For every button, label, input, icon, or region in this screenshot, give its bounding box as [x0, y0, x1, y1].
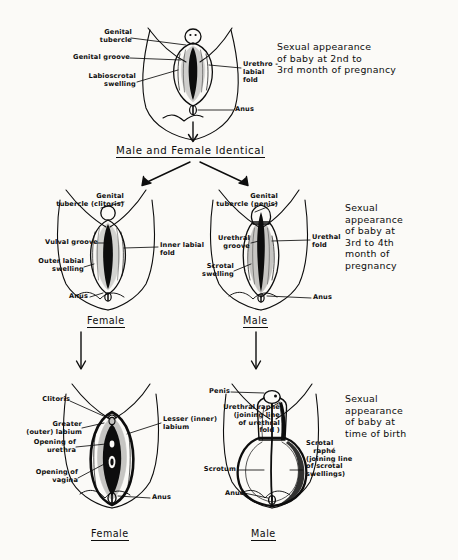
row-arrows	[77, 332, 261, 369]
label-outer-labial-swelling: Outer labial swelling	[18, 258, 84, 274]
label-genital-groove-top: Genital groove	[48, 54, 130, 62]
label-urethral-groove: Urethral groove	[180, 235, 250, 251]
stage-name-middle-male: Male	[243, 315, 268, 328]
divider-male-female-identical: Male and Female Identical	[116, 145, 265, 158]
stage-name-bottom-female: Female	[91, 528, 129, 541]
label-labioscrotal-swelling-top: Labioscrotal swelling	[52, 73, 136, 89]
label-scrotal-swelling: Scrotal swelling	[172, 263, 234, 279]
label-penis: Penis	[192, 388, 230, 396]
top-genital-structure	[174, 29, 213, 115]
stage-name-middle-female: Female	[87, 315, 125, 328]
label-scrotal-raphe: Scrotal raphé (joining line of scrotal s…	[306, 440, 352, 479]
label-genital-tubercle-top: Genital tubercle	[56, 29, 132, 45]
caption-stage-bottom: Sexual appearance of baby at time of bir…	[345, 393, 450, 439]
label-anus-middle-male: Anus	[313, 294, 332, 302]
label-urethro-labial-fold-top: Urethro - labial fold	[243, 61, 278, 84]
caption-stage-middle: Sexual appearance of baby at 3rd to 4th …	[345, 202, 450, 272]
label-greater-outer-labium: Greater (outer) labium	[8, 421, 82, 437]
label-scrotum: Scrotum	[186, 466, 236, 474]
label-opening-of-urethra: Opening of urethra	[10, 439, 76, 455]
label-genital-tubercle-penis: Genital tubercle (penis)	[176, 193, 278, 209]
stage-name-bottom-male: Male	[251, 528, 276, 541]
label-anus-bottom-female: Anus	[152, 494, 171, 502]
label-vulval-groove: Vulval groove	[22, 239, 98, 247]
label-clitoris: Clitoris	[28, 396, 70, 404]
label-opening-of-vagina: Opening of vagina	[10, 469, 78, 485]
label-urethral-raphe: Urethral raphé (joining line of urethral…	[178, 404, 280, 435]
label-anus-top: Anus	[235, 106, 254, 114]
label-urethral-fold: Urethal fold	[312, 234, 341, 250]
label-anus-bottom-male: Anus	[206, 490, 244, 498]
caption-stage-top: Sexual appearance of baby at 2nd to 3rd …	[277, 41, 452, 76]
bottom-female-genitalia	[91, 412, 134, 505]
label-genital-tubercle-clitoris: Genital tubercle (clitoris)	[24, 193, 124, 209]
figure-canvas: Genital tubercle Genital groove Labioscr…	[0, 0, 458, 560]
label-anus-middle-female: Anus	[54, 293, 88, 301]
